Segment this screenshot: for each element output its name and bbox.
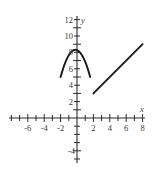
x-tick-label-4: 4 [108,123,113,133]
y-tick-label-10: 10 [65,31,74,41]
y-tick-label--4: -4 [68,146,76,156]
x-tick-label-8: 8 [140,123,144,133]
y-axis-label: y [80,15,85,25]
x-tick-label-6: 6 [124,123,128,133]
x-tick-label-2: 2 [91,123,95,133]
x-tick-label--4: -4 [41,123,49,133]
y-tick-label-4: 4 [69,80,74,90]
y-tick-label-8: 8 [69,47,73,57]
line-segment [93,44,142,93]
parabola-curve [61,50,91,77]
y-tick-label-2: 2 [69,97,73,107]
x-axis-label: x [139,104,144,114]
y-tick-label-6: 6 [69,64,73,74]
coordinate-plot: -6 -4 -2 2 4 6 8 12 10 8 6 4 2 -4 y x [0,0,153,179]
graph-figure: -6 -4 -2 2 4 6 8 12 10 8 6 4 2 -4 y x [0,0,153,179]
x-tick-label--6: -6 [24,123,31,133]
x-tick-label--2: -2 [57,123,64,133]
y-tick-label-12: 12 [65,15,74,25]
